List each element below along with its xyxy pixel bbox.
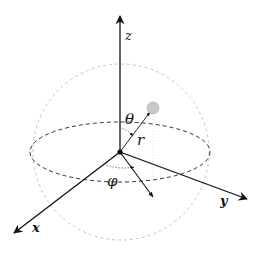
z-axis-label: z <box>124 28 132 43</box>
point-marker <box>147 102 159 114</box>
y-axis-label: y <box>219 193 229 208</box>
spherical-coordinates-diagram: z x y θ r φ <box>0 0 257 253</box>
y-axis <box>120 152 247 199</box>
theta-label: θ <box>125 110 134 128</box>
phi-label: φ <box>107 172 118 190</box>
origin-dot <box>117 149 122 154</box>
x-axis-label: x <box>31 220 40 235</box>
theta-arc <box>120 128 133 136</box>
r-label: r <box>137 131 145 149</box>
